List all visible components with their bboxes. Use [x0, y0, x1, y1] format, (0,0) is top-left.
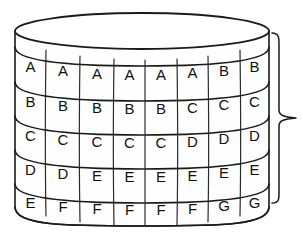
cell-letter: B	[58, 97, 68, 114]
cell-letter: C	[156, 134, 167, 151]
cell-letter: A	[58, 62, 68, 79]
cell-letter: D	[187, 133, 198, 150]
cell-divider-2	[79, 56, 80, 222]
cell-letter: D	[58, 165, 69, 182]
cell-letter: C	[25, 127, 36, 144]
cylinder-diagram: AAAAAABBBBBBBCCCCCCCCDDDDDEEEEEEEFFFFFGG	[0, 0, 303, 243]
figure-root: AAAAAABBBBBBBCCCCCCCCDDDDDEEEEEEEFFFFFGG	[0, 0, 303, 243]
cell-letter: F	[156, 201, 165, 218]
cell-divider-1	[45, 50, 46, 216]
cell-letter: F	[58, 198, 67, 215]
cell-letter: F	[92, 200, 101, 217]
cell-letter: G	[249, 194, 261, 211]
cell-letter: C	[187, 99, 198, 116]
cell-divider-3	[113, 59, 114, 225]
cell-letter: B	[25, 93, 35, 110]
cell-letter: D	[219, 130, 230, 147]
cell-letter: C	[124, 134, 135, 151]
cell-letter: B	[92, 99, 102, 116]
cell-letter: A	[187, 64, 197, 81]
cell-letter: F	[125, 201, 134, 218]
cell-letter: B	[249, 58, 259, 75]
cell-divider-5	[177, 59, 178, 225]
cell-letter: F	[188, 200, 197, 217]
cell-letter: C	[58, 131, 69, 148]
right-brace-icon	[272, 33, 296, 203]
cell-letter: E	[156, 168, 166, 185]
cell-letter: D	[25, 161, 36, 178]
cylinder-body	[15, 31, 269, 226]
cell-letter: B	[156, 100, 166, 117]
cell-letter: E	[25, 194, 35, 211]
cell-divider-7	[240, 50, 241, 216]
cell-divider-6	[208, 56, 209, 222]
cell-letter: G	[218, 197, 230, 214]
cell-letter: E	[124, 168, 134, 185]
cell-letter: A	[124, 66, 134, 83]
cell-letter: A	[156, 66, 166, 83]
cell-letter: D	[249, 127, 260, 144]
cell-letter: B	[219, 62, 229, 79]
cylinder-top-ellipse	[15, 13, 269, 49]
cell-letter: C	[249, 93, 260, 110]
cell-letter: C	[92, 133, 103, 150]
cell-letter: A	[92, 65, 102, 82]
cell-letter: E	[219, 164, 229, 181]
cell-letter: E	[187, 167, 197, 184]
cell-letter: B	[124, 100, 134, 117]
cell-letter: E	[92, 167, 102, 184]
cell-letter: A	[25, 58, 35, 75]
cell-letter: E	[249, 161, 259, 178]
cell-letter: C	[219, 96, 230, 113]
